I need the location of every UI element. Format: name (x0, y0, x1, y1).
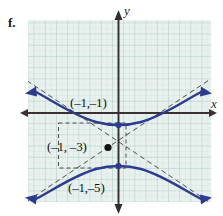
vertex-bottom-point (115, 163, 121, 169)
center-label: (–1, –3) (47, 139, 87, 155)
vertex-top-point (115, 122, 121, 128)
graph-plot-area (0, 0, 223, 216)
plot-background (28, 20, 211, 202)
hyperbola-figure: f. (0, 0, 223, 216)
vertex-bottom-label: (–1,–5) (68, 180, 105, 196)
y-axis-label: y (124, 3, 130, 19)
vertex-top-label: (–1,–1) (70, 95, 107, 111)
center-point (104, 144, 111, 151)
x-axis-label: x (211, 96, 217, 112)
